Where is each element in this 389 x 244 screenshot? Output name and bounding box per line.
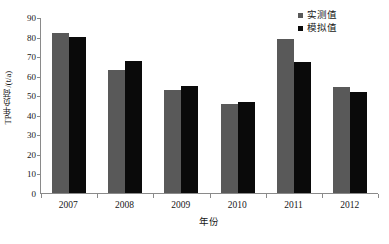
legend-item: 模拟值 (298, 23, 337, 34)
x-axis-tick-mark (153, 194, 154, 198)
x-axis-tick-mark (266, 194, 267, 198)
bar (238, 102, 255, 193)
y-axis-tick-label: 80 (27, 33, 36, 42)
x-axis-tick-mark (41, 194, 42, 198)
bar-chart: TP年负荷/(t/a) 0102030405060708090 20072008… (0, 0, 389, 244)
legend-label: 实测值 (307, 10, 337, 21)
y-axis-tick-label: 70 (27, 53, 36, 62)
x-axis-tick-mark (97, 194, 98, 198)
x-axis-tick-label: 2007 (40, 199, 96, 213)
bar (108, 70, 125, 193)
bar (164, 90, 181, 193)
y-axis-tick-mark (37, 174, 41, 175)
bar-group (97, 18, 153, 193)
y-axis-tick-label: 40 (27, 111, 36, 120)
y-axis-tick-mark (37, 18, 41, 19)
y-axis-tick-label: 50 (27, 92, 36, 101)
y-axis-tick-mark (37, 116, 41, 117)
y-axis-tick-mark (37, 57, 41, 58)
x-axis-tick-label: 2012 (322, 199, 378, 213)
x-axis-tick-labels: 200720082009201020112012 (40, 199, 378, 213)
x-axis-tick-label: 2008 (96, 199, 152, 213)
bar (52, 33, 69, 193)
y-axis-tick-mark (37, 77, 41, 78)
bar-group (266, 18, 322, 193)
bar-group (322, 18, 378, 193)
x-axis-title: 年份 (40, 214, 378, 228)
bar-groups (41, 18, 378, 193)
legend-label: 模拟值 (307, 23, 337, 34)
y-axis-tick-mark (37, 135, 41, 136)
x-axis-tick-mark (210, 194, 211, 198)
x-axis-tick-label: 2009 (153, 199, 209, 213)
bar (181, 86, 198, 193)
bar (125, 61, 142, 193)
bar (277, 39, 294, 193)
y-axis-tick-mark (37, 155, 41, 156)
y-axis-tick-labels: 0102030405060708090 (14, 18, 36, 194)
x-axis-tick-mark (322, 194, 323, 198)
bar (294, 62, 311, 193)
legend-swatch-icon (298, 26, 303, 31)
x-axis-tick-label: 2011 (265, 199, 321, 213)
y-axis-tick-label: 20 (27, 150, 36, 159)
y-axis-tick-label: 90 (27, 14, 36, 23)
legend-swatch-icon (298, 13, 303, 18)
bar-group (41, 18, 97, 193)
y-axis-title-text: TP年负荷/(t/a) (2, 71, 14, 124)
bar (333, 87, 350, 193)
bar-group (153, 18, 209, 193)
x-axis-tick-mark (378, 194, 379, 198)
bar (69, 37, 86, 193)
bar (221, 104, 238, 193)
y-axis-tick-label: 0 (32, 190, 37, 199)
y-axis-tick-label: 10 (27, 170, 36, 179)
bar-group (210, 18, 266, 193)
legend-item: 实测值 (298, 10, 337, 21)
y-axis-tick-mark (37, 96, 41, 97)
bar (350, 92, 367, 193)
y-axis-tick-mark (37, 38, 41, 39)
x-axis-tick-label: 2010 (209, 199, 265, 213)
y-axis-tick-label: 30 (27, 131, 36, 140)
legend: 实测值模拟值 (298, 10, 337, 34)
y-axis-tick-label: 60 (27, 72, 36, 81)
plot-area (40, 18, 378, 194)
